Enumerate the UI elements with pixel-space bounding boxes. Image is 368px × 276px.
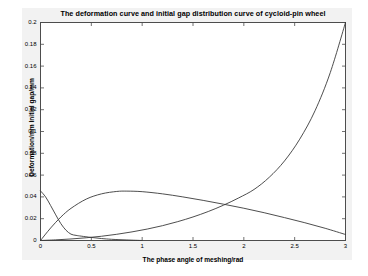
curve-line (41, 23, 346, 241)
x-tick-label: 0.5 (77, 243, 105, 249)
axes-frame (41, 23, 346, 241)
chart-screenshot: The deformation curve and initial gap di… (0, 0, 368, 276)
x-tick-label: 0 (27, 243, 55, 249)
y-tick-label: 0.04 (7, 193, 37, 199)
y-tick-label: 0.02 (7, 215, 37, 221)
y-tick-label: 0.16 (7, 63, 37, 69)
plot-area (0, 0, 368, 276)
y-tick-label: 0 (7, 237, 37, 243)
y-tick-label: 0.14 (7, 84, 37, 90)
matlab-figure: The deformation curve and initial gap di… (0, 0, 368, 276)
y-tick-label: 0.18 (7, 41, 37, 47)
axes-box (41, 23, 346, 241)
x-tick-label: 2 (230, 243, 258, 249)
tick-marks (41, 23, 346, 241)
y-tick-label: 0.12 (7, 106, 37, 112)
y-tick-label: 0.2 (7, 19, 37, 25)
y-tick-label: 0.06 (7, 172, 37, 178)
x-tick-label: 1 (128, 243, 156, 249)
y-tick-label: 0.1 (7, 128, 37, 134)
x-tick-label: 2.5 (281, 243, 309, 249)
x-tick-label: 3 (332, 243, 360, 249)
data-curves (41, 23, 346, 241)
y-tick-label: 0.08 (7, 150, 37, 156)
curve-line (41, 191, 346, 240)
x-tick-label: 1.5 (179, 243, 207, 249)
